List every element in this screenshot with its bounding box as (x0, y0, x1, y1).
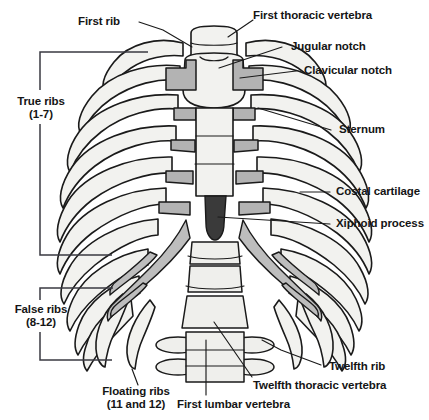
label-first-thoracic-vertebra: First thoracic vertebra (253, 9, 372, 22)
xiphoid-process-shape (205, 196, 226, 240)
l1-body (186, 332, 244, 382)
label-xiphoid-process: Xiphoid process (336, 217, 424, 230)
label-true-ribs-range: (1-7) (0, 108, 82, 121)
label-floating-ribs-text: Floating ribs (102, 385, 170, 397)
label-sternum: Sternum (339, 123, 385, 136)
label-jugular-notch: Jugular notch (291, 40, 366, 53)
label-false-ribs-text: False ribs (15, 303, 68, 315)
label-true-ribs: True ribs (1-7) (0, 95, 82, 121)
costal-cartilage-right-4 (236, 171, 263, 184)
leader-floating-ribs (132, 369, 138, 385)
costal-cartilage-left-3 (171, 140, 195, 152)
label-clavicular-notch: Clavicular notch (304, 64, 392, 77)
costal-cartilage-left-4 (166, 171, 193, 184)
sternum-body (195, 108, 234, 196)
costal-cartilage-right-3 (234, 140, 258, 152)
vertebra-t10 (190, 242, 240, 264)
sternum-body-plate (196, 108, 233, 196)
label-true-ribs-text: True ribs (17, 95, 65, 107)
thoracic-cage-figure: .bone { fill:#f2f2ef; stroke:#1a1a1a; st… (0, 0, 429, 420)
lower-thoracic-vertebrae (182, 242, 248, 328)
first-lumbar-vertebra-shape (156, 332, 274, 382)
costal-cartilage-right-5 (239, 202, 270, 215)
costal-cartilage-left-5 (159, 202, 190, 215)
costal-cartilage-left-2 (174, 108, 196, 120)
label-false-ribs: False ribs (8-12) (0, 303, 82, 329)
thoracic-cage-illustration: .bone { fill:#f2f2ef; stroke:#1a1a1a; st… (0, 0, 429, 420)
label-costal-cartilage: Costal cartilage (336, 185, 420, 198)
label-false-ribs-range: (8-12) (0, 316, 82, 329)
label-first-rib: First rib (78, 15, 120, 28)
label-first-lumbar-vertebra: First lumbar vertebra (177, 398, 290, 411)
costal-cartilage-right-2 (233, 108, 255, 120)
label-twelfth-rib: Twelfth rib (329, 360, 385, 373)
label-twelfth-thoracic-vertebra: Twelfth thoracic vertebra (253, 379, 386, 392)
